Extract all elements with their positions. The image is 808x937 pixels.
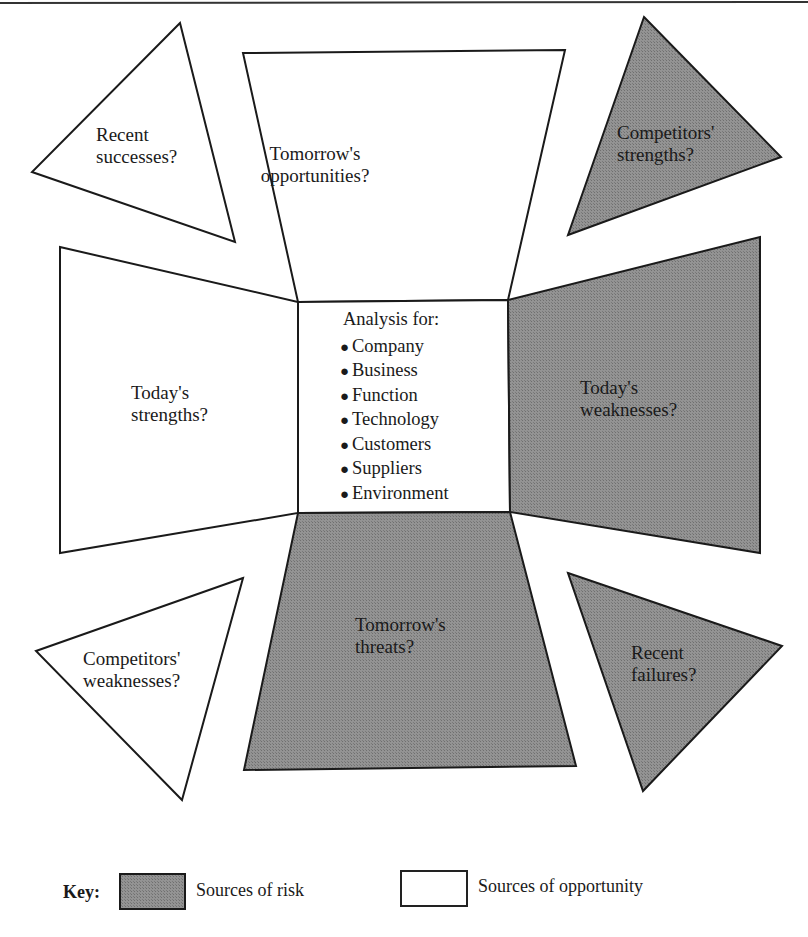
label-line: Competitors': [83, 648, 180, 670]
list-item-label: Business: [352, 360, 418, 380]
label-line: Recent: [631, 642, 696, 664]
todays-strengths-label: Today's strengths?: [131, 382, 208, 426]
list-item: ●Technology: [340, 408, 449, 433]
list-item-label: Environment: [352, 483, 449, 503]
label-line: Today's: [580, 377, 677, 399]
analysis-list: ●Company ●Business ●Function ●Technology…: [340, 335, 449, 507]
competitors-weaknesses-label: Competitors' weaknesses?: [83, 648, 180, 692]
label-line: Tomorrow's: [355, 614, 446, 636]
risk-swatch: [119, 873, 186, 910]
bullet-icon: ●: [340, 409, 352, 433]
list-item: ●Suppliers: [340, 457, 449, 482]
label-line: weaknesses?: [580, 399, 677, 421]
list-item-label: Function: [352, 385, 418, 405]
bullet-icon: ●: [340, 360, 352, 384]
label-line: Tomorrow's: [220, 143, 410, 165]
top-rule: [0, 2, 808, 3]
label-line: opportunities?: [220, 165, 410, 187]
label-line: Today's: [131, 382, 208, 404]
label-line: weaknesses?: [83, 670, 180, 692]
legend-risk-label: Sources of risk: [196, 880, 304, 901]
list-item: ●Function: [340, 384, 449, 409]
label-line: threats?: [355, 636, 446, 658]
bullet-icon: ●: [340, 458, 352, 482]
tomorrows-opportunities-label: Tomorrow's opportunities?: [220, 143, 410, 187]
bullet-icon: ●: [340, 434, 352, 458]
legend-opportunity-label: Sources of opportunity: [478, 876, 643, 897]
bullet-icon: ●: [340, 483, 352, 507]
list-item: ●Business: [340, 359, 449, 384]
recent-failures-label: Recent failures?: [631, 642, 696, 686]
label-line: strengths?: [131, 404, 208, 426]
bullet-icon: ●: [340, 336, 352, 360]
label-line: strengths?: [617, 144, 714, 166]
label-line: Recent: [96, 124, 177, 146]
label-line: Competitors': [617, 122, 714, 144]
bullet-icon: ●: [340, 385, 352, 409]
center-analysis: Analysis for: ●Company ●Business ●Functi…: [340, 308, 449, 506]
competitors-strengths-label: Competitors' strengths?: [617, 122, 714, 166]
list-item: ●Environment: [340, 482, 449, 507]
opportunity-swatch: [400, 870, 468, 907]
list-item-label: Company: [352, 336, 424, 356]
list-item-label: Customers: [352, 434, 431, 454]
list-item-label: Suppliers: [352, 458, 422, 478]
label-line: successes?: [96, 146, 177, 168]
swot-diagram: Recent successes? Tomorrow's opportuniti…: [0, 0, 808, 937]
todays-weaknesses-label: Today's weaknesses?: [580, 377, 677, 421]
tomorrows-threats-label: Tomorrow's threats?: [355, 614, 446, 658]
recent-successes-label: Recent successes?: [96, 124, 177, 168]
label-line: failures?: [631, 664, 696, 686]
legend-key-label: Key:: [63, 882, 100, 903]
list-item-label: Technology: [352, 409, 439, 429]
legend: Key: Sources of risk Sources of opportun…: [0, 860, 808, 920]
center-title: Analysis for:: [343, 308, 449, 332]
list-item: ●Customers: [340, 433, 449, 458]
list-item: ●Company: [340, 335, 449, 360]
